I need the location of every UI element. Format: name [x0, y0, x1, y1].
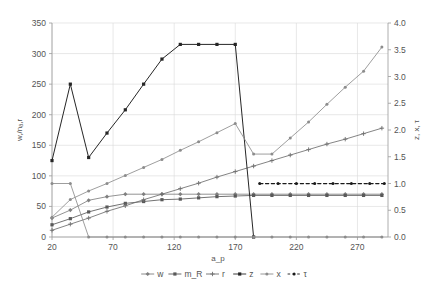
data-point-marker	[383, 182, 386, 185]
data-point-marker	[146, 272, 150, 276]
x-axis-title: a_p	[211, 254, 225, 263]
data-point-marker	[87, 189, 90, 192]
data-point-marker	[362, 70, 365, 73]
data-point-marker	[215, 195, 218, 198]
data-point-marker	[197, 236, 200, 239]
data-point-marker	[51, 216, 54, 219]
data-point-marker	[252, 194, 255, 197]
data-point-marker	[197, 43, 200, 46]
data-point-marker	[105, 236, 108, 239]
right-axis-tick-label: 0.5	[394, 205, 406, 215]
data-point-marker	[325, 103, 328, 106]
data-point-marker	[105, 205, 108, 208]
data-point-marker	[289, 137, 292, 140]
data-point-marker	[215, 236, 218, 239]
legend-item-[interactable]: τ	[288, 269, 308, 279]
x-axis-tick-label: 70	[108, 242, 118, 252]
data-point-marker	[380, 236, 383, 239]
left-axis-tick-label: 300	[32, 49, 46, 59]
legend-label-x: x	[276, 269, 281, 279]
data-point-marker	[313, 182, 316, 185]
legend-label-z: z	[249, 269, 253, 279]
data-point-marker	[215, 43, 218, 46]
legend-item-r[interactable]: r	[206, 269, 225, 279]
right-axis-tick-label: 1.0	[394, 179, 406, 189]
legend-item-m_R[interactable]: m_R	[168, 269, 202, 279]
right-axis-tick-label: 1.5	[394, 152, 406, 162]
data-point-marker	[380, 194, 383, 197]
legend-item-z[interactable]: z	[233, 269, 253, 279]
legend-label-m_R: m_R	[184, 269, 202, 279]
data-point-marker	[69, 198, 72, 201]
left-axis-tick-label: 0	[41, 232, 46, 242]
data-point-marker	[69, 182, 72, 185]
data-point-marker	[215, 131, 218, 134]
data-point-marker	[362, 194, 365, 197]
right-axis-tick-label: 4.0	[394, 18, 406, 28]
data-point-marker	[252, 236, 255, 239]
data-point-marker	[210, 272, 214, 276]
left-axis-tick-label: 100	[32, 171, 46, 181]
data-point-marker	[270, 153, 273, 156]
data-point-marker	[50, 159, 53, 162]
data-point-marker	[179, 149, 182, 152]
data-point-marker	[368, 182, 371, 185]
data-point-marker	[344, 86, 347, 89]
data-point-marker	[105, 182, 108, 185]
left-axis-tick-label: 250	[32, 79, 46, 89]
data-point-marker	[160, 158, 163, 161]
x-axis-tick-label: 270	[350, 242, 364, 252]
x-axis-tick-label: 120	[167, 242, 181, 252]
data-point-marker	[142, 236, 145, 239]
data-point-marker	[332, 182, 335, 185]
data-point-marker	[234, 43, 237, 46]
data-point-marker	[307, 120, 310, 123]
data-point-marker	[258, 182, 261, 185]
data-point-marker	[234, 194, 237, 197]
data-point-marker	[179, 236, 182, 239]
data-point-marker	[307, 194, 310, 197]
data-point-marker	[87, 156, 90, 159]
data-point-marker	[197, 196, 200, 199]
data-point-marker	[160, 57, 163, 60]
line-chart: 0501001502002503003500.00.51.01.52.02.53…	[0, 0, 440, 292]
data-point-marker	[307, 236, 310, 239]
data-point-marker	[277, 182, 280, 185]
left-axis-tick-label: 200	[32, 110, 46, 120]
data-point-marker	[252, 153, 255, 156]
data-point-marker	[160, 236, 163, 239]
data-point-marker	[142, 166, 145, 169]
data-point-marker	[197, 140, 200, 143]
x-axis-tick-label: 20	[47, 242, 57, 252]
left-axis-title: w,/nₐ,r	[15, 119, 24, 142]
data-point-marker	[179, 197, 182, 200]
data-point-marker	[344, 236, 347, 239]
legend-item-w[interactable]: w	[141, 269, 164, 279]
x-axis-tick-label: 170	[228, 242, 242, 252]
data-point-marker	[293, 273, 296, 276]
legend-item-x[interactable]: x	[260, 269, 281, 279]
data-point-marker	[87, 236, 90, 239]
data-point-marker	[160, 198, 163, 201]
left-axis-tick-label: 50	[37, 201, 47, 211]
data-point-marker	[350, 182, 353, 185]
right-axis-tick-label: 2.5	[394, 98, 406, 108]
data-point-marker	[50, 223, 53, 226]
data-point-marker	[289, 236, 292, 239]
data-point-marker	[325, 194, 328, 197]
data-point-marker	[173, 272, 176, 275]
legend-label-: τ	[304, 269, 308, 279]
data-point-marker	[105, 131, 108, 134]
data-point-marker	[124, 174, 127, 177]
data-point-marker	[124, 236, 127, 239]
data-point-marker	[69, 217, 72, 220]
data-point-marker	[69, 83, 72, 86]
data-point-marker	[124, 108, 127, 111]
data-point-marker	[265, 273, 268, 276]
data-point-marker	[234, 122, 237, 125]
legend-label-r: r	[222, 269, 225, 279]
right-axis-tick-label: 3.0	[394, 72, 406, 82]
data-point-marker	[142, 83, 145, 86]
left-axis-tick-label: 150	[32, 140, 46, 150]
plot-area-background	[52, 23, 388, 237]
